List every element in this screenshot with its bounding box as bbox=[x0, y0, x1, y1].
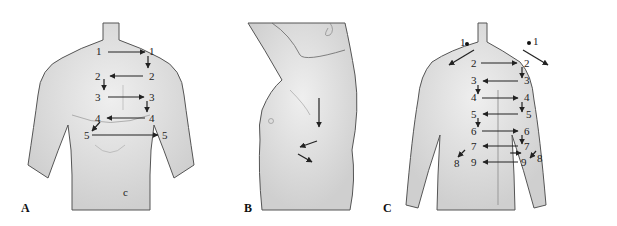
svg-text:6: 6 bbox=[524, 125, 530, 137]
svg-text:4: 4 bbox=[524, 91, 530, 103]
svg-text:7: 7 bbox=[471, 140, 477, 152]
svg-text:4: 4 bbox=[149, 112, 155, 124]
svg-text:2: 2 bbox=[95, 70, 101, 82]
panel-label-c: C bbox=[383, 201, 392, 215]
svg-text:4: 4 bbox=[471, 91, 477, 103]
svg-text:7: 7 bbox=[524, 140, 530, 152]
svg-text:1: 1 bbox=[96, 45, 102, 57]
svg-text:3: 3 bbox=[95, 91, 101, 103]
svg-text:3: 3 bbox=[524, 74, 530, 86]
svg-text:4: 4 bbox=[95, 112, 101, 124]
svg-text:1: 1 bbox=[460, 36, 466, 48]
svg-text:8: 8 bbox=[454, 157, 460, 169]
svg-text:5: 5 bbox=[84, 129, 90, 141]
panel-label-a: A bbox=[21, 201, 30, 215]
svg-text:9: 9 bbox=[471, 156, 477, 168]
svg-text:2: 2 bbox=[471, 57, 477, 69]
svg-text:6: 6 bbox=[471, 125, 477, 137]
svg-text:5: 5 bbox=[162, 129, 168, 141]
svg-text:3: 3 bbox=[149, 91, 155, 103]
panel-b-lateral: B bbox=[244, 23, 357, 215]
auscultation-figure: c 11 22 33 44 55 A bbox=[0, 0, 617, 226]
panel-c-posterior: 11 22 33 44 55 66 77 88 99 C bbox=[383, 23, 548, 215]
svg-text:1: 1 bbox=[149, 45, 155, 57]
svg-text:3: 3 bbox=[471, 74, 477, 86]
svg-text:9: 9 bbox=[521, 156, 527, 168]
svg-text:5: 5 bbox=[526, 108, 532, 120]
panel-a-anterior: c 11 22 33 44 55 A bbox=[21, 23, 194, 215]
svg-text:1: 1 bbox=[533, 35, 539, 47]
panel-label-b: B bbox=[244, 201, 252, 215]
svg-text:5: 5 bbox=[471, 108, 477, 120]
svg-text:2: 2 bbox=[524, 57, 530, 69]
svg-text:2: 2 bbox=[149, 70, 155, 82]
navel-mark: c bbox=[123, 186, 128, 198]
svg-text:8: 8 bbox=[537, 152, 543, 164]
torso-anterior-outline bbox=[28, 23, 194, 210]
